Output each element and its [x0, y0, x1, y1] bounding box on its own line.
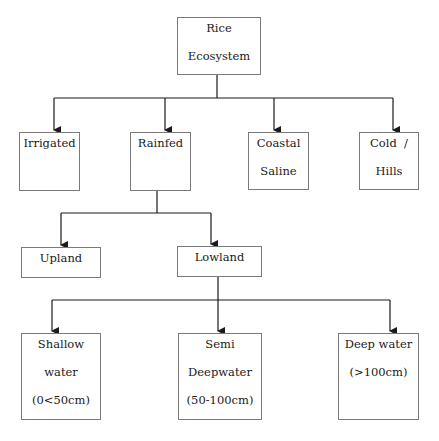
- node-label-line: Cold /: [360, 134, 418, 152]
- node-label-line: Ecosystem: [178, 42, 260, 70]
- node-label-line: Semi: [179, 335, 261, 353]
- node-deep-water: Deep water (>100cm): [338, 333, 419, 420]
- node-upland: Upland: [21, 247, 101, 278]
- node-label-line: Deepwater: [179, 358, 261, 386]
- node-label-line: Lowland: [178, 248, 261, 266]
- node-label-line: Upland: [22, 249, 100, 267]
- node-label-line: water: [22, 358, 100, 386]
- node-cold-hills: Cold / Hills: [359, 132, 419, 190]
- node-semi-deepwater: Semi Deepwater (50-100cm): [178, 333, 262, 420]
- node-label-line: Deep water: [339, 335, 418, 353]
- node-label-line: Rainfed: [131, 134, 190, 152]
- node-rice-ecosystem: Rice Ecosystem: [177, 17, 261, 75]
- node-label-line: Saline: [249, 157, 308, 185]
- node-label-line: Irrigated: [20, 134, 79, 152]
- node-shallow-water: Shallow water (0<50cm): [21, 333, 101, 420]
- node-rainfed: Rainfed: [130, 132, 191, 191]
- node-lowland: Lowland: [177, 246, 262, 277]
- node-label-line: (0<50cm): [22, 386, 100, 414]
- node-coastal-saline: Coastal Saline: [248, 132, 309, 190]
- node-label-line: Rice: [178, 19, 260, 37]
- node-label-line: Hills: [360, 157, 418, 185]
- node-label-line: (>100cm): [339, 358, 418, 386]
- node-label-line: (50-100cm): [179, 386, 261, 414]
- node-label-line: Coastal: [249, 134, 308, 152]
- node-label-line: Shallow: [22, 335, 100, 353]
- node-irrigated: Irrigated: [19, 132, 80, 191]
